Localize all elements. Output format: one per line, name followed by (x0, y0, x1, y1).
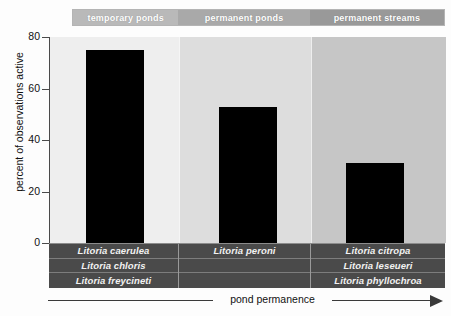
species-column-temporary-ponds: Litoria caerulea Litoria chloris Litoria… (49, 244, 178, 288)
species-row (179, 259, 310, 274)
y-tick-mark-40 (42, 140, 49, 141)
y-tick-mark-80 (42, 37, 49, 38)
panel-temporary-ponds (50, 37, 179, 243)
category-header-temporary-ponds: temporary ponds (73, 10, 178, 25)
plot-area (49, 37, 445, 243)
right-arrow-icon (430, 295, 443, 307)
species-row: Litoria citropa (311, 244, 445, 259)
y-tick-mark-20 (42, 192, 49, 193)
x-axis-title: pond permanence (210, 293, 335, 305)
y-tick-mark-60 (42, 89, 49, 90)
species-row: Litoria phyllochroa (311, 273, 445, 288)
bar-litoria-peroni (219, 107, 277, 243)
category-header-permanent-streams: permanent streams (310, 10, 444, 25)
y-axis: 80 60 40 20 0 percent of observations ac… (0, 30, 49, 250)
y-axis-title: percent of observations active (13, 32, 25, 212)
bar-litoria-citropa (346, 163, 404, 243)
y-tick-0: 0 (0, 243, 49, 244)
y-tick-label-80: 80 (28, 30, 40, 43)
x-axis-line-right (332, 300, 432, 301)
y-tick-mark-0 (42, 243, 49, 244)
y-tick-label-60: 60 (28, 82, 40, 95)
x-axis-line-left (48, 300, 213, 301)
panel-permanent-streams (311, 37, 446, 243)
category-header-band: temporary ponds permanent ponds permanen… (72, 9, 445, 26)
bar-litoria-caerulea (86, 50, 144, 243)
y-tick-label-40: 40 (28, 133, 40, 146)
x-axis: pond permanence (42, 292, 451, 312)
species-column-permanent-ponds: Litoria peroni (178, 244, 310, 288)
species-row: Litoria peroni (179, 244, 310, 259)
species-row: Litoria chloris (49, 259, 178, 274)
category-header-permanent-ponds: permanent ponds (178, 10, 309, 25)
chart-figure: temporary ponds permanent ponds permanen… (0, 0, 451, 316)
species-row: Litoria caerulea (49, 244, 178, 259)
y-tick-label-20: 20 (28, 185, 40, 198)
species-column-permanent-streams: Litoria citropa Litoria leseueri Litoria… (310, 244, 445, 288)
y-tick-label-0: 0 (34, 236, 40, 249)
species-row: Litoria leseueri (311, 259, 445, 274)
species-label-table: Litoria caerulea Litoria chloris Litoria… (49, 243, 445, 288)
species-row (179, 273, 310, 288)
panel-permanent-ponds (179, 37, 311, 243)
species-row: Litoria freycineti (49, 273, 178, 288)
